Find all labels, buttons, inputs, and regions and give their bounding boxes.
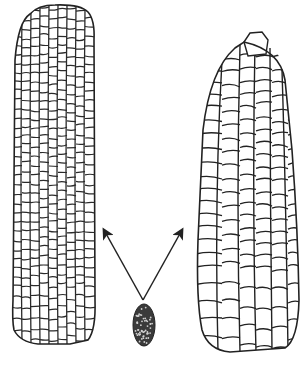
illustration — [0, 0, 307, 365]
small-cob — [133, 304, 155, 346]
arrow-right — [143, 230, 182, 300]
corn-evolution-figure — [0, 0, 307, 365]
right-cob — [196, 32, 300, 352]
arrows — [104, 230, 182, 300]
arrow-left — [104, 230, 143, 300]
left-cob — [13, 5, 95, 345]
